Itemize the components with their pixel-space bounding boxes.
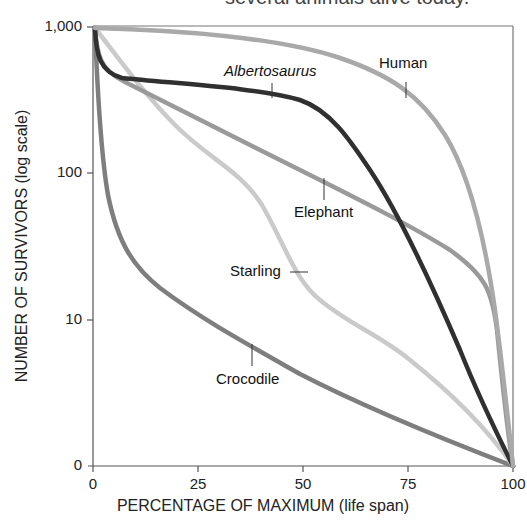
- x-tick-100: 100: [493, 475, 527, 492]
- label-elephant: Elephant: [294, 203, 353, 220]
- label-starling: Starling: [230, 262, 281, 279]
- y-tick-100: 100: [22, 163, 82, 180]
- starling-curve: [95, 28, 513, 466]
- crocodile-curve: [95, 28, 513, 466]
- y-tick-1000: 1,000: [22, 17, 82, 34]
- human-curve: [95, 28, 513, 466]
- y-tick-10: 10: [22, 310, 82, 327]
- label-crocodile: Crocodile: [216, 370, 279, 387]
- elephant-curve: [95, 28, 513, 466]
- label-albertosaurus: Albertosaurus: [224, 62, 317, 79]
- x-tick-50: 50: [283, 475, 323, 492]
- y-tick-0: 0: [22, 456, 82, 473]
- y-axis-title: NUMBER OF SURVIVORS (log scale): [13, 110, 31, 383]
- label-human: Human: [379, 54, 427, 71]
- x-tick-0: 0: [73, 475, 113, 492]
- x-tick-75: 75: [388, 475, 428, 492]
- x-axis-title: PERCENTAGE OF MAXIMUM (life span): [43, 497, 483, 515]
- albertosaurus-curve: [95, 28, 513, 466]
- x-tick-25: 25: [178, 475, 218, 492]
